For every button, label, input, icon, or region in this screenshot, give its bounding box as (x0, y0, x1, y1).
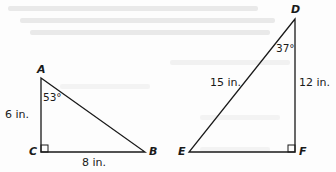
side-label-cb: 8 in. (82, 157, 106, 169)
vertex-label-f: F (299, 146, 307, 158)
vertex-label-e: E (178, 146, 186, 158)
right-angle-marker-c (41, 145, 48, 152)
side-label-df: 12 in. (299, 77, 330, 89)
vertex-label-d: D (291, 4, 300, 16)
right-angle-marker-f (288, 145, 295, 152)
triangle-abc (41, 78, 145, 152)
angle-label-d: 37° (276, 42, 295, 54)
angle-label-a: 53° (43, 91, 62, 103)
side-label-ac: 6 in. (5, 109, 29, 121)
vertex-label-a: A (37, 64, 46, 76)
diagram-canvas: A C B 53° 6 in. 8 in. D E F 37° 15 in. 1… (0, 0, 336, 172)
triangle-def (189, 19, 295, 152)
side-label-de: 15 in. (210, 77, 241, 89)
vertex-label-c: C (29, 146, 37, 158)
triangles-figure (0, 0, 336, 172)
vertex-label-b: B (149, 146, 157, 158)
